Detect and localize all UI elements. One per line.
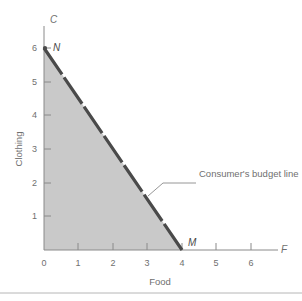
- y-tick-label-5: 5: [32, 77, 37, 87]
- x-tick-label-5: 5: [213, 258, 218, 268]
- x-axis-symbol-label: F: [281, 244, 288, 255]
- y-tick-label-1: 1: [32, 211, 37, 221]
- budget-line-annotation-label: Consumer's budget line: [199, 168, 299, 179]
- point-label-n: N: [53, 42, 61, 53]
- x-tick-label-0: 0: [41, 258, 46, 268]
- budget-line-figure: 1 2 3 4 5 6 0 1 2 3 4 5 6 C F N M Consum…: [0, 0, 302, 301]
- chart-canvas: 1 2 3 4 5 6 0 1 2 3 4 5 6 C F N M Consum…: [0, 0, 302, 301]
- x-tick-label-4: 4: [179, 258, 184, 268]
- x-tick-label-3: 3: [144, 258, 149, 268]
- y-axis-title: Clothing: [13, 132, 24, 167]
- y-tick-label-6: 6: [32, 43, 37, 53]
- x-axis-title: Food: [149, 276, 171, 287]
- x-tick-label-6: 6: [248, 258, 253, 268]
- point-label-m: M: [188, 237, 197, 248]
- y-tick-label-4: 4: [32, 110, 37, 120]
- y-tick-label-3: 3: [32, 144, 37, 154]
- y-tick-label-2: 2: [32, 178, 37, 188]
- y-axis-symbol-label: C: [50, 14, 58, 25]
- x-tick-label-1: 1: [75, 258, 80, 268]
- x-tick-label-2: 2: [110, 258, 115, 268]
- point-marker-n: [43, 46, 47, 50]
